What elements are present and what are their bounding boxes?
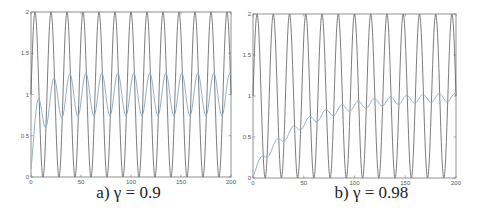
y-tick-label: 1.5 bbox=[21, 50, 30, 56]
signal-line bbox=[31, 12, 231, 177]
plot-a: 05010015020000.511.52 bbox=[0, 0, 239, 190]
caption-b: b) γ = 0.98 bbox=[239, 183, 478, 203]
y-tick-label: 0.5 bbox=[243, 134, 252, 140]
response-line bbox=[253, 93, 456, 176]
caption-a: a) γ = 0.9 bbox=[0, 183, 239, 203]
y-tick-label: 2 bbox=[26, 9, 30, 15]
y-tick-label: 1.5 bbox=[243, 52, 252, 58]
y-tick-label: 2 bbox=[248, 11, 252, 17]
y-tick-label: 1 bbox=[248, 93, 252, 99]
subplot-a: 05010015020000.511.52 a) γ = 0.9 bbox=[0, 0, 239, 214]
y-tick-label: 1 bbox=[26, 92, 30, 98]
y-tick-label: 0.5 bbox=[21, 133, 30, 139]
subplot-b: 05010015020000.511.52 b) γ = 0.98 bbox=[239, 0, 478, 214]
plot-b: 05010015020000.511.52 bbox=[239, 0, 478, 190]
